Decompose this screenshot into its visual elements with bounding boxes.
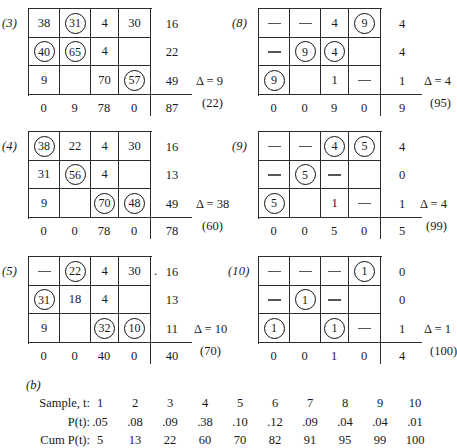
circled-value: 31 [34,289,55,310]
sample-index: 7 [296,396,324,411]
grand-total-value: 4 [390,349,414,364]
circled-value: 4 [324,41,345,62]
circled-value: 40 [34,41,55,62]
column-demand-value: 0 [258,349,289,364]
sample-index: 6 [261,396,289,411]
column-demand-value: 0 [289,349,320,364]
cell-value: 4 [101,293,107,306]
circled-value: 9 [354,13,375,34]
circled-value: 9 [295,41,316,62]
dash-marker [268,146,281,147]
tableau-cell [290,314,321,343]
probability-value: .38 [191,415,219,430]
cell-value: 1 [331,74,337,87]
tableau-cell [321,286,349,314]
circled-value: 1 [264,318,285,339]
column-demand-value: 1 [320,349,348,364]
circled-value: 70 [94,193,115,214]
cell-value: 9 [41,74,47,87]
cell-value: 4 [101,140,107,153]
prob-row-label: P(t): [0,415,90,430]
circled-value: 1 [324,318,345,339]
sample-index: 2 [121,396,149,411]
circled-value: 10 [124,318,145,339]
summary-tick [380,342,381,364]
circled-value: 5 [295,164,316,185]
dash-marker [268,23,281,24]
dash-marker [268,174,281,175]
cumulative-probability-value: 100 [401,433,429,448]
probability-table: (b) Sample, t:12345678910P(t):.05.08.09.… [0,378,457,448]
sample-index: 8 [331,396,359,411]
cell-value: 30 [128,140,141,153]
cumulative-probability-value: 13 [121,433,149,448]
cumulative-probability-value: 95 [331,433,359,448]
circled-value: 22 [65,261,86,282]
tableau-cell [259,286,290,314]
circled-value: 31 [65,13,86,34]
circled-value: 38 [34,136,55,157]
tableau-cell [349,286,381,314]
prob-row-label: Sample, t: [0,396,90,411]
circled-value: 1 [295,289,316,310]
circled-value: 9 [264,70,285,91]
tableau-cell: 1 [259,314,290,343]
cell-value: 9 [41,197,47,210]
cumulative-probability-value: 70 [226,433,254,448]
circled-value: 5 [354,136,375,157]
sample-index: 9 [366,396,394,411]
dash-marker [358,203,371,204]
circled-value: 57 [124,70,145,91]
tableau-cell: 1 [349,257,381,286]
cell-value: 4 [101,45,107,58]
tableau-label: (10) [228,264,250,279]
sample-index: 4 [191,396,219,411]
cell-value: 4 [331,17,337,30]
tableau-cell [290,257,321,286]
prob-row-label: Cum P(t): [0,433,90,448]
circled-value: 32 [94,318,115,339]
probability-value: .12 [261,415,289,430]
tableau-cell [259,257,290,286]
probability-value: .04 [331,415,359,430]
cell-value: 30 [128,17,141,30]
cumulative-probability-value: 99 [366,433,394,448]
dash-marker [328,174,341,175]
cell-value: 4 [101,168,107,181]
tableau-cell [349,314,381,343]
circled-value: 48 [124,193,145,214]
cumulative-probability-value: 22 [156,433,184,448]
probability-value: .01 [401,415,429,430]
circled-value: 5 [264,193,285,214]
sample-index: 10 [401,396,429,411]
cell-value: 70 [98,74,111,87]
dash-marker [358,80,371,81]
cell-value: 1 [331,197,337,210]
cell-value: 18 [69,293,82,306]
probability-value: .09 [156,415,184,430]
cell-value: 4 [101,265,107,278]
tableau-cell: 1 [321,314,349,343]
row-supply-value: 0 [390,293,414,308]
sample-index: 5 [226,396,254,411]
cell-value: 4 [101,17,107,30]
circled-value: 56 [65,164,86,185]
circled-value: 4 [324,136,345,157]
dash-marker [268,299,281,300]
dash-marker [358,328,371,329]
cumulative-probability-value: 91 [296,433,324,448]
probability-value: .04 [366,415,394,430]
cumulative-probability-value: 60 [191,433,219,448]
column-demand-value: 0 [348,349,380,364]
circled-value: 65 [65,41,86,62]
cell-value: 9 [41,322,47,335]
dash-marker [299,23,312,24]
cell-value: 31 [38,168,51,181]
dash-marker [268,51,281,52]
row-supply-value: 1 [390,322,414,337]
tableau-grid: 1111 [258,256,382,344]
tableau-cell [321,257,349,286]
sample-index: 3 [156,396,184,411]
dash-marker [328,271,341,272]
sample-index: 1 [86,396,114,411]
